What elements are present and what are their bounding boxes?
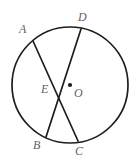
center-dot-icon — [68, 83, 72, 87]
vertex-label-e: E — [41, 83, 48, 95]
vertex-label-a: A — [19, 23, 26, 35]
vertex-label-d: D — [78, 11, 87, 23]
vertex-label-b: B — [33, 139, 40, 151]
chord-ac — [33, 41, 78, 141]
vertex-label-c: C — [75, 145, 83, 157]
geometry-figure: A D E O B C — [0, 0, 139, 163]
vertex-label-o: O — [74, 87, 83, 99]
